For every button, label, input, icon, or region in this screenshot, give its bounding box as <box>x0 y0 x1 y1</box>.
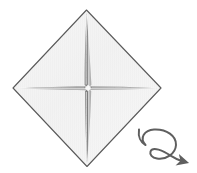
turn-over-arrow-path <box>139 129 181 160</box>
origami-diagram-figure <box>0 0 197 173</box>
turn-over-arrow <box>139 129 181 160</box>
origami-diagram-canvas <box>0 0 197 173</box>
center-cross-creases <box>16 13 158 163</box>
